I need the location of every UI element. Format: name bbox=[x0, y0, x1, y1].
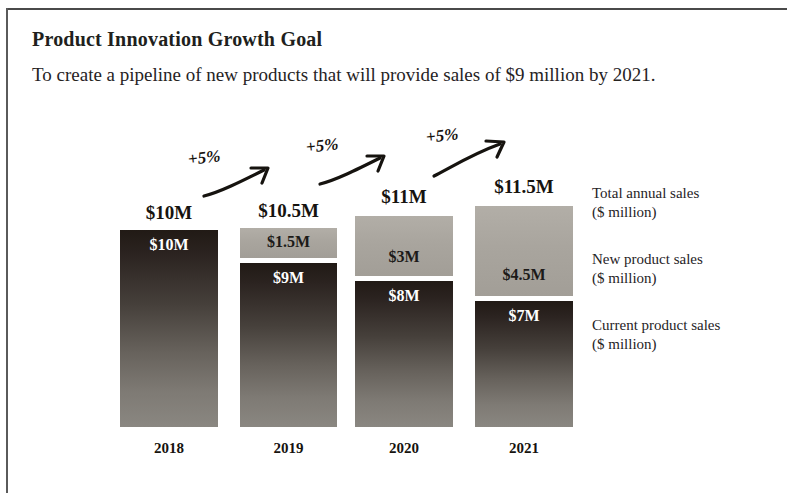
growth-label-3: +5% bbox=[425, 124, 459, 147]
bar-segment-label-current-2018: $10M bbox=[120, 236, 218, 254]
growth-annotation-2018-2019: +5% bbox=[196, 152, 286, 198]
bar-segment-label-new-2020: $3M bbox=[355, 248, 453, 266]
bar-segment-label-new-2019: $1.5M bbox=[240, 233, 337, 251]
bar-segment-new-2021: $4.5M bbox=[475, 206, 573, 296]
bar-segment-current-2021: $7M bbox=[475, 301, 573, 427]
legend-label-new-product-sales: New product sales bbox=[592, 251, 703, 267]
legend-sublabel-current-product-sales: ($ million) bbox=[592, 335, 782, 354]
x-axis-label-2020: 2020 bbox=[355, 440, 453, 457]
bar-segment-current-2019: $9M bbox=[240, 263, 337, 427]
legend-sublabel-new-product-sales: ($ million) bbox=[592, 269, 782, 288]
bar-group-2018: $10M $10M 2018 bbox=[120, 230, 218, 427]
x-axis-label-2021: 2021 bbox=[475, 440, 573, 457]
growth-label-2: +5% bbox=[305, 134, 339, 157]
total-label-2019: $10.5M bbox=[240, 200, 337, 222]
bar-group-2020: $11M $3M $8M 2020 bbox=[355, 216, 453, 427]
bar-group-2021: $11.5M $4.5M $7M 2021 bbox=[475, 206, 573, 427]
total-label-2018: $10M bbox=[120, 202, 218, 224]
total-label-2020: $11M bbox=[355, 186, 453, 208]
bar-segment-current-2020: $8M bbox=[355, 281, 453, 427]
bar-segment-current-2018: $10M bbox=[120, 230, 218, 427]
growth-label-1: +5% bbox=[187, 146, 221, 169]
bar-segment-label-current-2021: $7M bbox=[475, 307, 573, 325]
bar-segment-new-2019: $1.5M bbox=[240, 228, 337, 258]
bar-group-2019: $10.5M $1.5M $9M 2019 bbox=[240, 228, 337, 427]
legend-label-current-product-sales: Current product sales bbox=[592, 317, 720, 333]
legend-item-total-annual-sales: Total annual sales ($ million) bbox=[592, 184, 782, 222]
legend-item-current-product-sales: Current product sales ($ million) bbox=[592, 316, 782, 354]
chart-legend: Total annual sales ($ million) New produ… bbox=[592, 184, 782, 354]
bar-segment-label-new-2021: $4.5M bbox=[475, 266, 573, 284]
growth-annotation-2020-2021: +5% bbox=[428, 128, 524, 178]
x-axis-label-2018: 2018 bbox=[120, 440, 218, 457]
bar-segment-new-2020: $3M bbox=[355, 216, 453, 276]
growth-annotation-2019-2020: +5% bbox=[312, 140, 402, 186]
bar-segment-label-current-2020: $8M bbox=[355, 287, 453, 305]
total-label-2021: $11.5M bbox=[475, 176, 573, 198]
chart-page: Product Innovation Growth Goal To create… bbox=[0, 0, 787, 493]
legend-item-new-product-sales: New product sales ($ million) bbox=[592, 250, 782, 288]
legend-label-total-annual-sales: Total annual sales bbox=[592, 185, 699, 201]
x-axis-label-2019: 2019 bbox=[240, 440, 337, 457]
legend-sublabel-total-annual-sales: ($ million) bbox=[592, 203, 782, 222]
bar-segment-label-current-2019: $9M bbox=[240, 269, 337, 287]
